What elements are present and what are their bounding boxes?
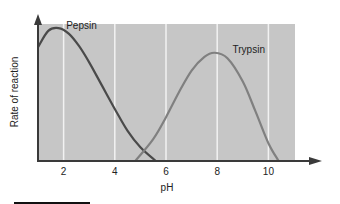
x-axis-arrow-icon	[309, 157, 322, 165]
ph-enzyme-chart: 246810 PepsinTrypsin pH Rate of reaction	[0, 0, 340, 204]
caption-bar	[14, 202, 90, 204]
x-tick-label: 8	[214, 166, 220, 177]
x-tick-label: 6	[163, 166, 169, 177]
x-tick-label: 4	[112, 166, 118, 177]
x-axis-label: pH	[161, 182, 174, 193]
y-axis-label: Rate of reaction	[9, 57, 20, 128]
x-tick-labels: 246810	[61, 166, 275, 177]
trypsin-label: Trypsin	[233, 44, 265, 55]
x-tick-label: 10	[263, 166, 275, 177]
pepsin-label: Pepsin	[66, 20, 97, 31]
x-tick-label: 2	[61, 166, 67, 177]
y-axis-arrow-icon	[34, 14, 42, 25]
